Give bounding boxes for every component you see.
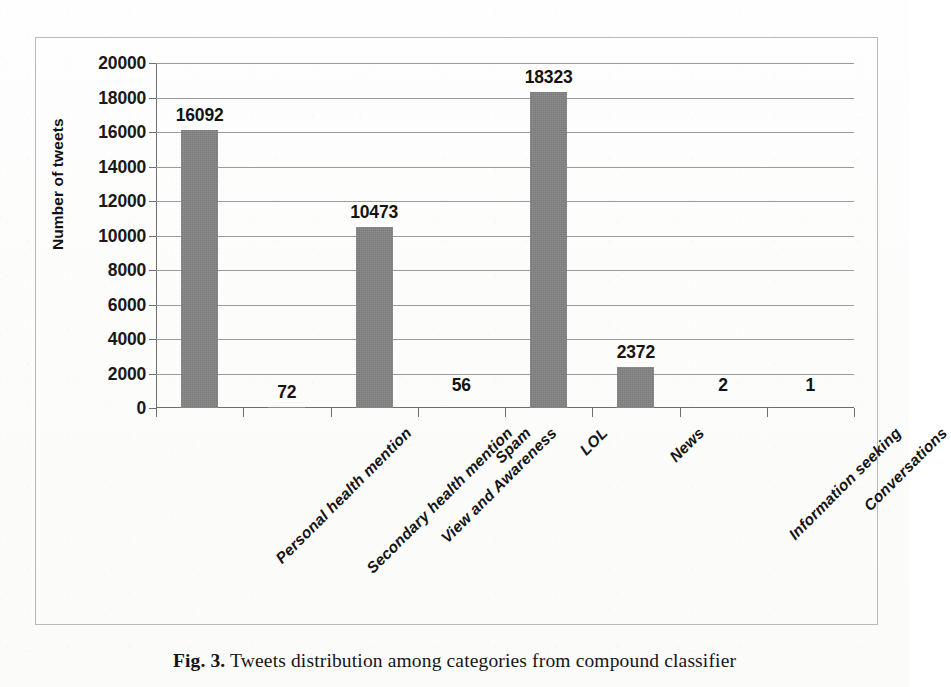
x-axis-tick-mark — [592, 408, 593, 417]
y-axis-tick-label: 8000 — [108, 260, 146, 281]
x-axis-tick-mark — [767, 408, 768, 417]
y-axis-tick-label: 14000 — [98, 156, 146, 177]
gridline — [156, 339, 854, 340]
bar-value-label: 72 — [277, 382, 296, 403]
y-axis-tick-label: 0 — [136, 398, 146, 419]
plot-area: 0200040006000800010000120001400016000180… — [156, 63, 854, 408]
y-axis-tick-mark — [149, 374, 156, 375]
bar-value-label: 56 — [452, 375, 471, 396]
y-axis-tick-label: 16000 — [98, 122, 146, 143]
gridline — [156, 305, 854, 306]
bar[interactable] — [617, 367, 654, 408]
gridline — [156, 374, 854, 375]
y-axis-tick-mark — [149, 408, 156, 409]
y-axis-tick-mark — [149, 305, 156, 306]
y-axis-tick-label: 4000 — [108, 329, 146, 350]
y-axis-title: Number of tweets — [49, 118, 67, 250]
x-axis-tick-mark — [156, 408, 157, 417]
y-axis-tick-label: 6000 — [108, 294, 146, 315]
x-axis-tick-mark — [505, 408, 506, 417]
x-axis-tick-mark — [331, 408, 332, 417]
bar-value-label: 1 — [806, 375, 816, 396]
bar[interactable] — [268, 407, 305, 408]
y-axis-tick-label: 18000 — [98, 87, 146, 108]
gridline — [156, 63, 854, 64]
caption-text: Tweets distribution among categories fro… — [230, 650, 736, 671]
bar[interactable] — [530, 92, 567, 408]
y-axis-tick-mark — [149, 236, 156, 237]
y-axis-tick-label: 2000 — [108, 363, 146, 384]
bar[interactable] — [181, 130, 218, 408]
gridline — [156, 201, 854, 202]
gridline — [156, 270, 854, 271]
y-axis-tick-mark — [149, 63, 156, 64]
x-axis-tick-mark — [243, 408, 244, 417]
y-axis-tick-label: 12000 — [98, 191, 146, 212]
y-axis-tick-mark — [149, 132, 156, 133]
y-axis-tick-mark — [149, 339, 156, 340]
gridline — [156, 167, 854, 168]
x-axis-tick-mark — [854, 408, 855, 417]
bar[interactable] — [356, 227, 393, 408]
bar-value-label: 10473 — [350, 202, 398, 223]
y-axis-tick-label: 10000 — [98, 225, 146, 246]
y-axis-tick-mark — [149, 201, 156, 202]
y-axis-tick-mark — [149, 270, 156, 271]
y-axis-tick-mark — [149, 98, 156, 99]
figure-caption: Fig. 3. Tweets distribution among catego… — [0, 650, 909, 672]
y-axis-tick-mark — [149, 167, 156, 168]
bar-value-label: 2372 — [617, 342, 655, 363]
bar-value-label: 16092 — [176, 105, 224, 126]
bar-value-label: 2 — [718, 375, 728, 396]
x-axis-tick-mark — [680, 408, 681, 417]
figure-number: Fig. 3. — [173, 650, 226, 671]
bar-value-label: 18323 — [525, 67, 573, 88]
x-axis-tick-mark — [418, 408, 419, 417]
gridline — [156, 98, 854, 99]
y-axis-tick-label: 20000 — [98, 53, 146, 74]
gridline — [156, 236, 854, 237]
gridline — [156, 132, 854, 133]
